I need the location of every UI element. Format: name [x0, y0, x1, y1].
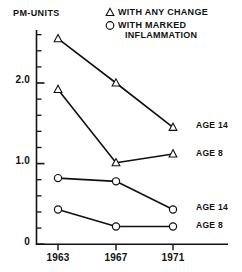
circle-marker	[54, 175, 61, 182]
circle-marker	[169, 223, 176, 230]
chart-axes	[37, 30, 229, 245]
series-segment	[116, 154, 173, 163]
circle-marker	[169, 206, 176, 213]
circle-marker	[54, 206, 61, 213]
data-series	[54, 85, 177, 166]
legend-label-marked-inflammation-line2: INFLAMMATION	[125, 30, 197, 40]
series-segment	[116, 83, 173, 127]
data-series	[54, 175, 176, 214]
data-series	[54, 206, 176, 230]
x-tick-label-1967: 1967	[96, 252, 136, 263]
circle-marker	[112, 178, 119, 185]
x-tick-label-1971: 1971	[153, 252, 193, 263]
x-axis-ticks	[58, 244, 173, 250]
triangle-marker	[54, 85, 62, 92]
legend-markers	[106, 8, 114, 29]
x-tick-label-1963: 1963	[38, 252, 78, 263]
y-axis-ticks	[37, 35, 45, 245]
chart-container: PM-UNITS WITH ANY CHANGE WITH MARKED INF…	[0, 0, 242, 272]
data-series-group	[54, 34, 177, 230]
legend-label-marked-inflammation: WITH MARKED	[118, 20, 186, 30]
series-end-label-any-change-age8: AGE 8	[196, 148, 223, 158]
legend-circle-icon	[106, 22, 114, 30]
y-tick-label-0: 0	[6, 236, 30, 247]
series-segment	[116, 181, 173, 209]
triangle-marker	[169, 150, 177, 157]
y-tick-label-1: 1.0	[6, 155, 30, 166]
circle-marker	[112, 223, 119, 230]
line-chart-plot	[0, 0, 242, 272]
legend-label-any-change: WITH ANY CHANGE	[118, 7, 208, 17]
series-end-label-inflammation-age8: AGE 8	[196, 220, 223, 230]
series-end-label-any-change-age14: AGE 14	[196, 120, 228, 130]
y-axis-title: PM-UNITS	[13, 8, 60, 18]
data-series	[54, 34, 177, 130]
legend-triangle-icon	[106, 8, 114, 15]
series-end-label-inflammation-age14: AGE 14	[196, 202, 228, 212]
triangle-marker	[54, 34, 62, 41]
series-segment	[58, 178, 116, 181]
series-segment	[58, 89, 116, 162]
triangle-marker	[112, 79, 120, 86]
triangle-marker	[169, 123, 177, 130]
y-tick-label-2: 2.0	[6, 74, 30, 85]
series-segment	[58, 39, 116, 83]
series-segment	[58, 210, 116, 227]
